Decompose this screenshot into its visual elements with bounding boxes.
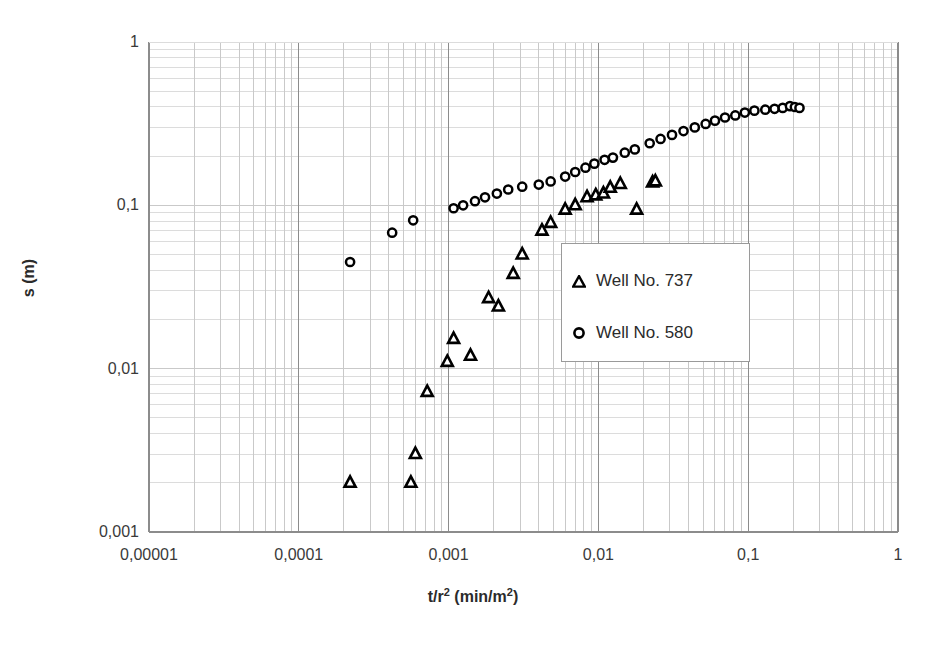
data-point: [493, 189, 501, 197]
data-point: [656, 135, 664, 143]
data-point: [547, 177, 555, 185]
data-point: [615, 178, 626, 188]
data-point: [561, 172, 569, 180]
data-point: [345, 476, 356, 486]
data-point: [646, 139, 654, 147]
data-point: [679, 127, 687, 135]
data-point: [609, 154, 617, 162]
x-axis-tick-label: 1: [894, 546, 903, 564]
data-point: [504, 185, 512, 193]
axis-frame: [149, 42, 898, 532]
data-point: [668, 131, 676, 139]
data-point: [409, 216, 417, 224]
data-point: [721, 113, 729, 121]
data-point: [422, 386, 433, 396]
y-axis-title: s (m): [20, 238, 38, 318]
data-point: [535, 180, 543, 188]
x-axis-tick-label: 0,0001: [274, 546, 323, 564]
data-point: [761, 106, 769, 114]
data-point: [448, 333, 459, 343]
data-point: [388, 229, 396, 237]
major-vertical-gridlines: [149, 42, 898, 532]
x-axis-tick-label: 0,00001: [120, 546, 178, 564]
data-point: [691, 123, 699, 131]
data-point: [471, 197, 479, 205]
x-axis-tick-label: 0,001: [429, 546, 469, 564]
circle-marker-icon: [562, 326, 596, 340]
major-horizontal-gridlines: [149, 42, 898, 532]
x-axis-title: t/r2 (min/m2): [0, 588, 946, 606]
data-point: [795, 104, 803, 112]
data-point: [405, 476, 416, 486]
x-axis-tick-label: 0,1: [737, 546, 759, 564]
data-point: [545, 217, 556, 227]
legend-item-well-580: Well No. 580: [562, 318, 749, 348]
data-point: [581, 164, 589, 172]
data-point: [346, 258, 354, 266]
y-axis-tick-label: 0,01: [53, 360, 139, 378]
data-point: [481, 193, 489, 201]
y-axis-tick-label: 1: [53, 33, 139, 51]
data-point: [410, 448, 421, 458]
data-point: [518, 183, 526, 191]
data-point: [601, 156, 609, 164]
x-axis-title-mid: (min/m: [450, 588, 507, 605]
data-point: [465, 349, 476, 359]
x-axis-title-end: ): [513, 588, 518, 605]
scatter-chart: 0,000010,00010,0010,010,11 0,0010,010,11…: [0, 0, 946, 646]
data-point: [508, 268, 519, 278]
data-point: [741, 108, 749, 116]
x-axis-title-main: t/r: [428, 588, 444, 605]
data-point: [702, 120, 710, 128]
data-point: [711, 117, 719, 125]
data-point: [483, 292, 494, 302]
data-point: [590, 160, 598, 168]
data-point: [731, 111, 739, 119]
data-point: [570, 199, 581, 209]
data-point: [517, 248, 528, 258]
minor-horizontal-gridlines: [149, 49, 898, 482]
legend-item-well-737: Well No. 737: [562, 266, 749, 296]
triangle-marker-icon: [562, 275, 596, 288]
y-axis-tick-label: 0,001: [53, 523, 139, 541]
x-axis-tick-label: 0,01: [583, 546, 614, 564]
data-point: [442, 355, 453, 365]
data-point: [571, 168, 579, 176]
data-point: [750, 107, 758, 115]
data-point: [631, 145, 639, 153]
y-axis-tick-label: 0,1: [53, 196, 139, 214]
data-point: [621, 149, 629, 157]
chart-legend: Well No. 737 Well No. 580: [561, 243, 750, 362]
legend-label-well-737: Well No. 737: [596, 271, 693, 291]
data-point: [631, 203, 642, 213]
data-point: [459, 201, 467, 209]
data-point: [450, 204, 458, 212]
legend-label-well-580: Well No. 580: [596, 323, 693, 343]
